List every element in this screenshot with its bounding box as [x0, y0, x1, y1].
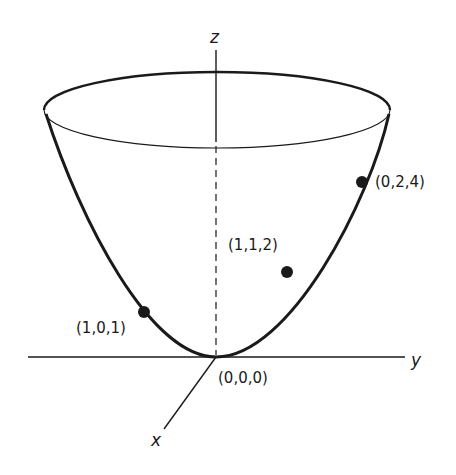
x-axis	[164, 357, 216, 429]
point-1-0-1-label: (1,0,1)	[76, 319, 126, 337]
rim-back	[44, 72, 390, 110]
point-1-1-2-dot	[281, 266, 293, 278]
y-axis-label: y	[410, 350, 422, 370]
z-axis-label: z	[209, 27, 220, 47]
origin-label: (0,0,0)	[218, 369, 268, 387]
point-0-2-4-dot	[356, 176, 368, 188]
point-1-1-2-label: (1,1,2)	[228, 236, 278, 254]
x-axis-label: x	[150, 430, 162, 450]
point-1-0-1-dot	[138, 306, 150, 318]
point-0-2-4-label: (0,2,4)	[375, 173, 425, 191]
paraboloid-diagram: z y x (0,0,0) (1,0,1) (1,1,2) (0,2,4)	[0, 0, 456, 475]
rim-front	[44, 110, 390, 148]
